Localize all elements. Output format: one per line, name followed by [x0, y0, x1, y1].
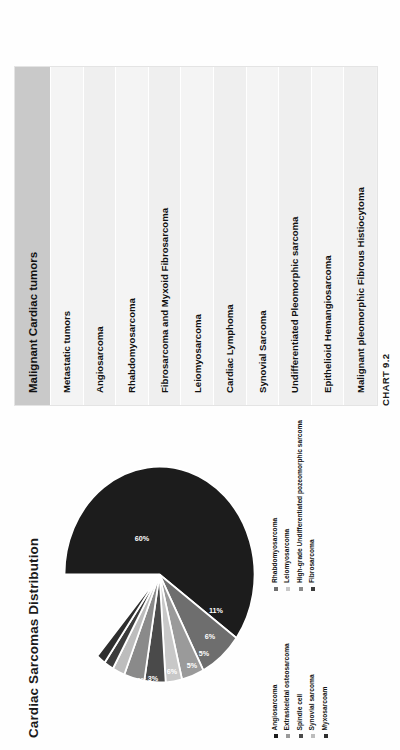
table-header-label: Malignant Cardiac tumors: [27, 252, 39, 393]
table-cell: Leiomyosarcoma: [192, 314, 203, 393]
table-body: Metastatic tumors Angiosarcoma Rhabdomyo…: [51, 67, 376, 405]
legend-label: Synovial sarcoma: [309, 674, 316, 730]
legend-label: Leiomyosarcoma: [284, 529, 291, 583]
legend-swatch-icon: [324, 734, 328, 738]
legend-label: Fibrosarcoma: [309, 539, 316, 583]
pie-chart: 60% 11% 6% 5% 5% 6% 3% 2% 2%: [54, 453, 265, 696]
table-row: Malignant pleomorphic Fibrous Histiocyto…: [344, 67, 376, 405]
legend-column-left: Angiosarcoma Extraskeletal osteosarcoma …: [270, 597, 392, 738]
pie-label-3: 3%: [148, 674, 159, 683]
chart-title: Cardiac Sarcomas Distribution: [26, 418, 41, 738]
legend-item-high-grade-ups[interactable]: High-grade Undifferentiated pozeomorphic…: [297, 420, 304, 591]
pie-label-6b: 6%: [167, 667, 178, 676]
table-row: Undifferentiated Pleomorphic sarcoma: [279, 67, 312, 405]
legend-swatch-icon: [299, 587, 303, 591]
legend-item-spindle-cell[interactable]: Spindle cell: [297, 597, 304, 738]
table-row: Epithelioid Hemangiosarcoma: [312, 67, 345, 405]
legend-label: Angiosarcoma: [272, 685, 279, 731]
legend-label: Spindle cell: [297, 694, 304, 731]
table-row: Metastatic tumors: [51, 67, 84, 405]
table-cell: Malignant pleomorphic Fibrous Histiocyto…: [355, 187, 366, 393]
legend-item-rhabdomyosarcoma[interactable]: Rhabdomyosarcoma: [272, 420, 279, 591]
legend-item-angiosarcoma[interactable]: Angiosarcoma: [272, 597, 279, 738]
legend-swatch-icon: [274, 734, 278, 738]
legend-label: Rhabdomyosarcoma: [272, 518, 279, 583]
malignant-cardiac-tumors-table: Malignant Cardiac tumors Metastatic tumo…: [14, 66, 378, 406]
table-row: Angiosarcoma: [84, 67, 117, 405]
table-cell: Synovial Sarcoma: [257, 310, 268, 393]
legend-item-myxosarcoam[interactable]: Myxosarcoam: [322, 597, 329, 738]
table-cell: Fibrosarcoma and Myxoid Fibrosarcoma: [159, 208, 170, 393]
pie-chart-figure: Cardiac Sarcomas Distribution: [8, 420, 392, 738]
legend-item-extraskeletal-osteosarcoma[interactable]: Extraskeletal osteosarcoma: [284, 597, 291, 738]
legend-item-synovial-sarcoma[interactable]: Synovial sarcoma: [309, 597, 316, 738]
pie-label-60: 60%: [135, 534, 150, 543]
legend-label: Extraskeletal osteosarcoma: [284, 643, 291, 730]
pie-label-6a: 6%: [205, 632, 216, 641]
table-cell: Angiosarcoma: [94, 326, 105, 393]
legend-swatch-icon: [311, 587, 315, 591]
table-row: Synovial Sarcoma: [247, 67, 280, 405]
table-row: Fibrosarcoma and Myxoid Fibrosarcoma: [149, 67, 182, 405]
table-cell: Epithelioid Hemangiosarcoma: [322, 255, 333, 393]
pie-label-5a: 5%: [199, 649, 210, 658]
chart-legend: Angiosarcoma Extraskeletal osteosarcoma …: [270, 420, 392, 738]
table-header-row: Malignant Cardiac tumors: [15, 67, 51, 405]
pie-label-2b: 2%: [126, 677, 137, 686]
legend-label: High-grade Undifferentiated pozeomorphic…: [297, 420, 304, 583]
legend-swatch-icon: [286, 734, 290, 738]
rotated-page: Cardiac Sarcomas Distribution: [0, 0, 400, 750]
page-canvas: Cardiac Sarcomas Distribution: [0, 0, 400, 750]
legend-swatch-icon: [311, 734, 315, 738]
figure-caption: CHART 9.2: [380, 354, 391, 406]
pie-label-2a: 2%: [137, 676, 148, 685]
legend-item-leiomyosarcoma[interactable]: Leiomyosarcoma: [284, 420, 291, 591]
legend-item-fibrosarcoma[interactable]: Fibrosarcoma: [309, 420, 316, 591]
table-cell: Rhabdomyosarcoma: [126, 298, 137, 393]
legend-swatch-icon: [274, 587, 278, 591]
pie-label-5b: 5%: [187, 661, 198, 670]
table-row: Leiomyosarcoma: [181, 67, 214, 405]
legend-swatch-icon: [286, 587, 290, 591]
table-cell: Metastatic tumors: [61, 311, 72, 393]
legend-column-right: Rhabdomyosarcoma Leiomyosarcoma High-gra…: [270, 420, 392, 591]
table-cell: Cardiac Lymphoma: [224, 304, 235, 393]
table-row: Rhabdomyosarcoma: [116, 67, 149, 405]
legend-swatch-icon: [299, 734, 303, 738]
legend-label: Myxosarcoam: [322, 687, 329, 731]
pie-chart-svg: 60% 11% 6% 5% 5% 6% 3% 2% 2%: [54, 453, 265, 696]
pie-label-11: 11%: [209, 606, 224, 615]
table-cell: Undifferentiated Pleomorphic sarcoma: [289, 217, 300, 393]
table-row: Cardiac Lymphoma: [214, 67, 247, 405]
